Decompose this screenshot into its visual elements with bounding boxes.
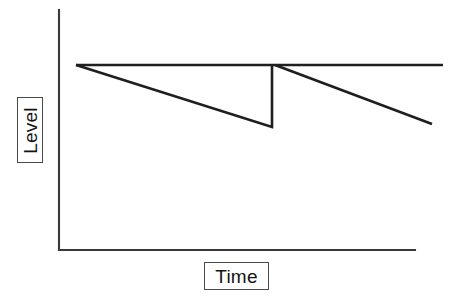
plot-canvas xyxy=(0,0,456,305)
figure-root: Level Time xyxy=(0,0,456,305)
series-depletion-cycle-1 xyxy=(76,65,272,127)
x-axis-label: Time xyxy=(204,262,269,290)
series-depletion-cycle-2 xyxy=(275,65,432,124)
x-axis-label-text: Time xyxy=(215,267,257,286)
y-axis-label: Level xyxy=(17,97,43,163)
y-axis-label-text: Level xyxy=(21,107,40,153)
